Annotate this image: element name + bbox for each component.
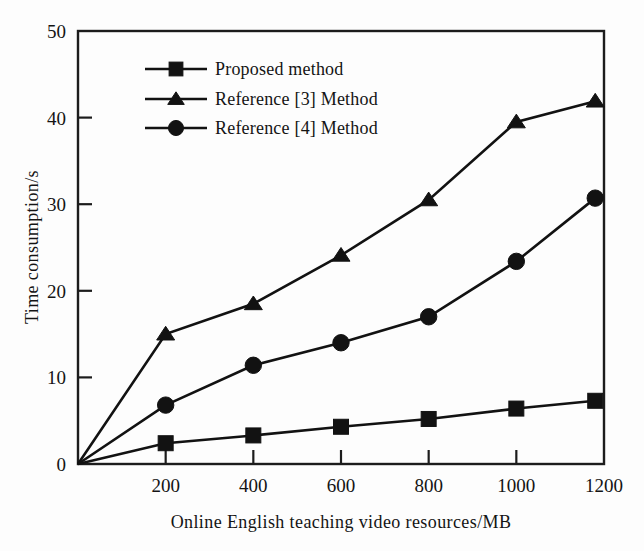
data-point-marker	[420, 309, 436, 325]
data-series-layer	[78, 93, 604, 464]
x-axis-title: Online English teaching video resources/…	[171, 512, 512, 532]
legend-label: Reference [3] Method	[215, 89, 378, 109]
legend-entry-1: Proposed method	[145, 59, 344, 79]
y-tick-label: 50	[47, 21, 66, 42]
data-point-marker	[509, 401, 524, 416]
data-point-marker	[245, 357, 261, 373]
y-tick-label: 0	[57, 454, 67, 475]
y-tick-label: 30	[47, 194, 66, 215]
y-tick-label: 40	[47, 108, 66, 129]
data-point-marker	[246, 428, 261, 443]
legend-entry-3: Reference [4] Method	[145, 118, 378, 138]
legend-label: Proposed method	[215, 59, 344, 79]
x-axis-ticks	[166, 450, 517, 464]
data-point-marker	[157, 397, 173, 413]
legend-marker-circle	[168, 120, 183, 135]
data-point-marker	[333, 335, 349, 351]
x-tick-label: 1200	[585, 475, 623, 496]
data-point-marker	[586, 93, 604, 107]
y-axis-ticks	[78, 118, 92, 378]
data-point-marker	[332, 248, 350, 262]
x-tick-label: 400	[239, 475, 268, 496]
data-point-marker	[334, 419, 349, 434]
x-tick-label: 600	[327, 475, 356, 496]
y-tick-label: 20	[47, 281, 66, 302]
x-tick-label: 1000	[497, 475, 535, 496]
chart-figure: 01020304050 20040060080010001200 Propose…	[0, 0, 644, 551]
y-axis-tick-labels: 01020304050	[47, 21, 66, 475]
data-point-marker	[421, 411, 436, 426]
legend-entry-2: Reference [3] Method	[145, 89, 378, 109]
data-point-marker	[244, 296, 262, 310]
y-tick-label: 10	[47, 367, 66, 388]
data-point-marker	[508, 253, 524, 269]
legend-label: Reference [4] Method	[215, 118, 378, 138]
y-axis-title: Time consumption/s	[22, 170, 42, 324]
x-axis-tick-labels: 20040060080010001200	[151, 475, 623, 496]
chart-legend: Proposed methodReference [3] MethodRefer…	[145, 59, 378, 138]
data-point-marker	[587, 190, 603, 206]
x-tick-label: 200	[151, 475, 180, 496]
data-point-marker	[158, 436, 173, 451]
data-point-marker	[588, 393, 603, 408]
x-tick-label: 800	[414, 475, 443, 496]
legend-marker-square	[169, 62, 183, 76]
line-chart: 01020304050 20040060080010001200 Propose…	[0, 0, 644, 551]
